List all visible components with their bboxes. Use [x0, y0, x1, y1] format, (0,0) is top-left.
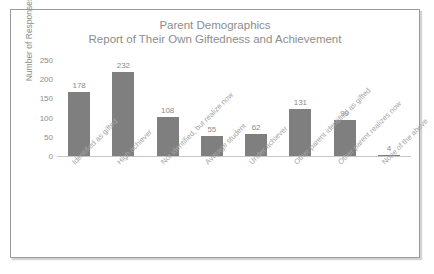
chart-frame: Parent Demographics Report of Their Own … — [10, 9, 420, 258]
y-axis-tick-label: 200 — [40, 75, 53, 84]
y-axis-tick-label: 150 — [40, 94, 53, 103]
y-axis-tick-label: 250 — [40, 56, 53, 65]
chart-subtitle: Report of Their Own Giftedness and Achie… — [11, 32, 419, 46]
bar-value-label: 131 — [289, 98, 311, 107]
chart-title-block: Parent Demographics Report of Their Own … — [11, 18, 419, 46]
y-axis-tick-label: 50 — [44, 132, 53, 141]
chart-title: Parent Demographics — [11, 18, 419, 32]
y-axis-tick-label: 100 — [40, 113, 53, 122]
y-axis-tick-label: 0 — [49, 152, 53, 161]
bar-value-label: 108 — [157, 106, 179, 115]
x-axis-line — [57, 156, 411, 157]
bar-value-label: 232 — [112, 61, 134, 70]
x-axis-labels: Identified as giftedHigh achieverNot ide… — [57, 158, 411, 254]
bar-value-label: 178 — [68, 81, 90, 90]
y-axis-ticks: 250200150100500 — [33, 60, 53, 160]
